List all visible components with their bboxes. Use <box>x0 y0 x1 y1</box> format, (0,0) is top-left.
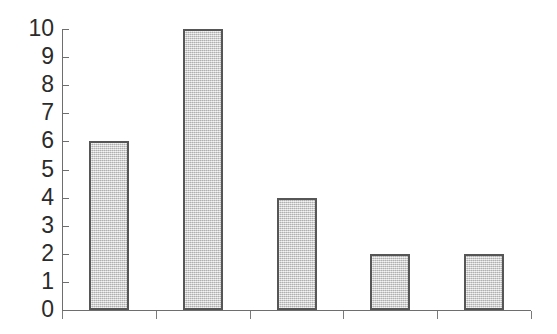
y-axis-tick <box>62 282 69 283</box>
y-axis-tick-label: 8 <box>41 73 54 96</box>
y-axis-tick <box>62 310 69 311</box>
y-axis-tick <box>62 85 69 86</box>
y-axis-tick-label: 6 <box>41 129 54 152</box>
bar <box>89 141 129 310</box>
y-axis-tick <box>62 141 69 142</box>
bar <box>277 198 317 310</box>
y-axis-tick <box>62 254 69 255</box>
y-axis-tick-label: 7 <box>41 101 54 124</box>
bar <box>370 254 410 310</box>
y-axis-tick <box>62 198 69 199</box>
x-axis-tick <box>343 311 344 319</box>
y-axis-tick <box>62 29 69 30</box>
x-axis-tick <box>531 311 532 319</box>
x-axis-tick <box>156 311 157 319</box>
plot-area: 109876543210 <box>0 0 557 334</box>
y-axis-tick <box>62 170 69 171</box>
bar <box>464 254 504 310</box>
y-axis-tick-label: 10 <box>28 17 54 40</box>
y-axis-tick <box>62 226 69 227</box>
y-axis-tick-label: 9 <box>41 45 54 68</box>
x-axis-tick <box>250 311 251 319</box>
y-axis-tick <box>62 57 69 58</box>
y-axis-tick-label: 4 <box>41 186 54 209</box>
y-axis-tick-label: 0 <box>41 298 54 321</box>
bar-chart-figure: 109876543210 <box>0 0 557 334</box>
x-axis-tick <box>62 311 63 319</box>
y-axis-tick-label: 1 <box>41 270 54 293</box>
y-axis-tick-label: 2 <box>41 242 54 265</box>
y-axis-tick-label: 5 <box>41 158 54 181</box>
y-axis-tick-label: 3 <box>41 214 54 237</box>
x-axis-tick <box>437 311 438 319</box>
y-axis-tick <box>62 113 69 114</box>
x-axis-line <box>62 310 531 311</box>
bar <box>183 29 223 310</box>
